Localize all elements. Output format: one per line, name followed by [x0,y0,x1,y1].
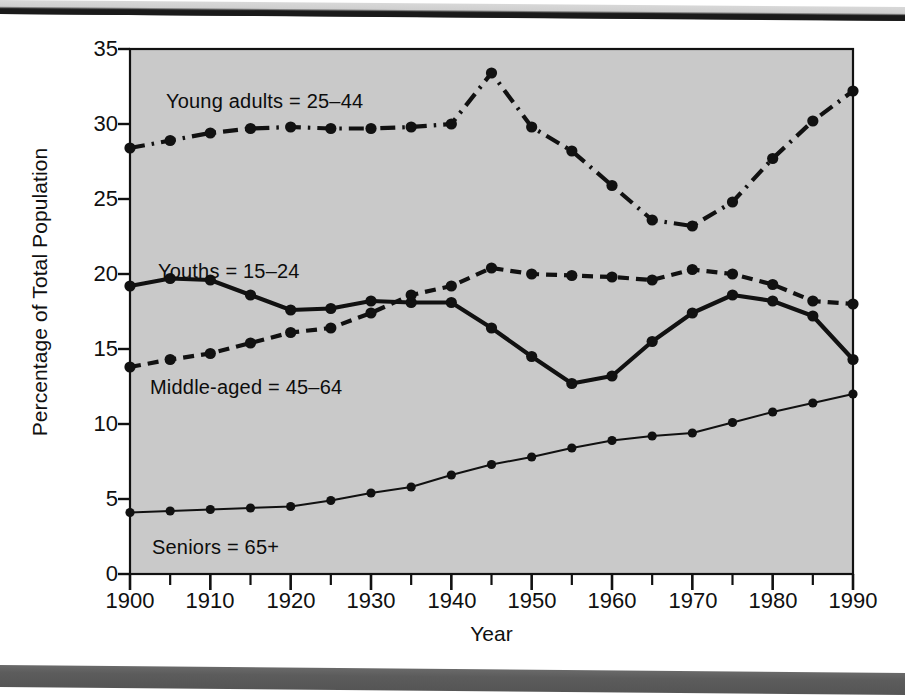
y-tick-label-35: 35 [72,36,118,62]
x-tick-label-1950: 1950 [487,588,577,614]
data-point [566,378,577,389]
data-point [246,503,255,512]
y-tick-label-0: 0 [72,561,118,587]
x-tick-label-1900: 1900 [85,588,175,614]
data-point [486,262,497,273]
x-tick-label-1930: 1930 [326,588,416,614]
data-point [527,452,536,461]
data-point [767,153,778,164]
data-point [807,115,818,126]
data-point [566,145,577,156]
data-point [286,502,295,511]
data-point [125,508,134,517]
data-point [648,431,657,440]
data-point [647,336,658,347]
data-point [325,123,336,134]
series-label-seniors: Seniors = 65+ [152,536,279,559]
x-tick-labels: 1900 1910 1920 1930 1940 1950 1960 1970 … [0,588,905,622]
data-point [727,289,738,300]
data-point [847,85,858,96]
data-point [124,280,135,291]
data-point [245,337,256,348]
data-point [486,67,497,78]
data-point [847,298,858,309]
y-tick-marks [118,49,130,574]
y-tick-label-5: 5 [72,486,118,512]
data-point [205,127,216,138]
data-point [206,505,215,514]
data-point [768,407,777,416]
data-point [366,488,375,497]
series-label-youths: Youths = 15–24 [158,260,300,283]
data-point [124,361,135,372]
data-point [807,295,818,306]
data-point [728,418,737,427]
data-point [325,303,336,314]
data-point [727,268,738,279]
data-point [446,280,457,291]
y-axis-title: Percentage of Total Population [28,82,52,502]
y-tick-label-20: 20 [72,261,118,287]
data-point [727,196,738,207]
data-point [406,289,417,300]
data-point [647,214,658,225]
x-tick-label-1980: 1980 [728,588,818,614]
data-point [446,118,457,129]
data-point [365,123,376,134]
data-point [688,428,697,437]
data-point [165,135,176,146]
y-tick-label-10: 10 [72,411,118,437]
x-tick-label-1990: 1990 [808,588,898,614]
series-label-middle-aged: Middle-aged = 45–64 [150,376,342,399]
data-point [767,295,778,306]
x-axis-title: Year [130,622,853,646]
data-point [285,327,296,338]
data-point [165,354,176,365]
line-chart-figure: Percentage of Total Population 0 5 10 15… [0,18,905,663]
series-label-young-adults: Young adults = 25–44 [166,90,363,113]
data-point [607,436,616,445]
data-point [285,304,296,315]
data-point [124,142,135,153]
x-tick-label-1940: 1940 [407,588,497,614]
data-point [326,496,335,505]
x-tick-label-1960: 1960 [567,588,657,614]
data-point [285,121,296,132]
data-point [848,389,857,398]
data-point [205,348,216,359]
data-point [526,268,537,279]
data-point [606,180,617,191]
data-point [566,270,577,281]
data-point [447,470,456,479]
data-point [567,443,576,452]
data-point [807,310,818,321]
scan-edge-band-bottom [0,665,905,695]
data-point [687,264,698,275]
y-tick-label-25: 25 [72,186,118,212]
data-point [365,295,376,306]
data-point [365,307,376,318]
data-point [446,297,457,308]
data-point [847,354,858,365]
plot-background-panel [130,49,853,574]
data-point [687,220,698,231]
x-tick-label-1970: 1970 [648,588,738,614]
data-point [687,307,698,318]
data-point [487,460,496,469]
data-point [325,322,336,333]
data-point [486,322,497,333]
y-tick-label-30: 30 [72,111,118,137]
data-point [407,482,416,491]
data-point [245,123,256,134]
data-point [526,121,537,132]
data-point [406,121,417,132]
plot-area [0,18,905,663]
data-point [606,271,617,282]
data-point [526,351,537,362]
x-tick-label-1920: 1920 [246,588,336,614]
x-tick-label-1910: 1910 [165,588,255,614]
data-point [166,506,175,515]
data-point [245,289,256,300]
data-point [767,279,778,290]
